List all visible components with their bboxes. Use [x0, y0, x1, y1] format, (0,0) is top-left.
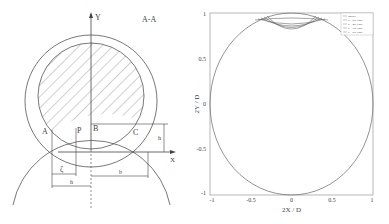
legend-entry: S = 0% Coke	[348, 19, 364, 22]
zeta-label: ζ	[60, 165, 64, 174]
x-axis-label: 2X / D	[282, 206, 301, 214]
svg-text:-0.5: -0.5	[197, 146, 207, 152]
hatched-region	[20, 20, 170, 180]
x-tick-labels: -1 -0.5 0 0.5 1	[210, 197, 374, 203]
legend: Border S = 0% Coke S = 4% Coke S = 6% Co…	[341, 13, 373, 35]
h-right-label: h	[158, 135, 161, 141]
svg-text:0: 0	[290, 197, 293, 203]
legend-entry: S = 8% Coke	[348, 31, 364, 34]
h-left-label: h	[70, 179, 73, 185]
y-axis-arrow-icon	[89, 12, 93, 18]
x-axis-arrow-icon	[170, 150, 176, 154]
legend-entry: S = 4% Coke	[348, 23, 364, 26]
point-c-label: C	[133, 128, 138, 137]
x-axis-label: X	[170, 156, 175, 164]
series-border	[210, 13, 373, 195]
svg-text:0.5: 0.5	[328, 197, 336, 203]
svg-text:1: 1	[203, 11, 206, 17]
y-axis-label: 2Y / D	[195, 95, 201, 114]
cross-section-svg: Y A-A X h A P B C ζ h b	[0, 0, 195, 224]
svg-text:-0.5: -0.5	[246, 197, 256, 203]
y-axis-label: Y	[95, 13, 101, 22]
point-p-label: P	[77, 126, 82, 135]
section-label: A-A	[142, 15, 156, 24]
svg-text:0.5: 0.5	[199, 56, 207, 62]
legend-entry: S = 6% Coke	[348, 27, 364, 30]
point-b-label: B	[93, 124, 98, 133]
chart-svg: Border S = 0% Coke S = 4% Coke S = 6% Co…	[195, 0, 389, 224]
coke-profile-chart: Border S = 0% Coke S = 4% Coke S = 6% Co…	[195, 0, 389, 224]
svg-text:0: 0	[203, 101, 206, 107]
svg-text:-1: -1	[201, 190, 206, 196]
point-a-label: A	[42, 127, 48, 136]
b-label: b	[119, 169, 122, 175]
svg-text:-1: -1	[210, 197, 215, 203]
svg-text:1: 1	[371, 197, 374, 203]
cross-section-diagram: Y A-A X h A P B C ζ h b	[0, 0, 195, 224]
lower-arc	[13, 140, 170, 205]
legend-entry: Border	[348, 15, 356, 18]
plot-frame	[210, 13, 373, 195]
